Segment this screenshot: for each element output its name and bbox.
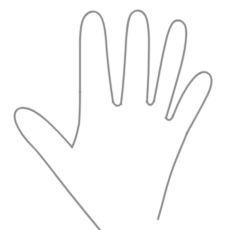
image-canvas: Hand Outline Drawing Simple grey pencil-…: [0, 0, 229, 230]
background-rect: [0, 0, 229, 230]
hand-outline-illustration: open human hand, palm facing viewer, fiv…: [0, 0, 229, 230]
